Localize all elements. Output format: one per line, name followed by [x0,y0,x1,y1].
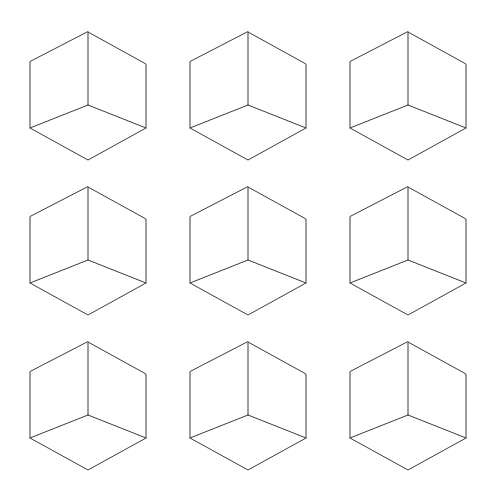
cube-grid-canvas [0,0,480,492]
cube-grid-svg [0,0,480,492]
cubes-layer [30,32,466,470]
